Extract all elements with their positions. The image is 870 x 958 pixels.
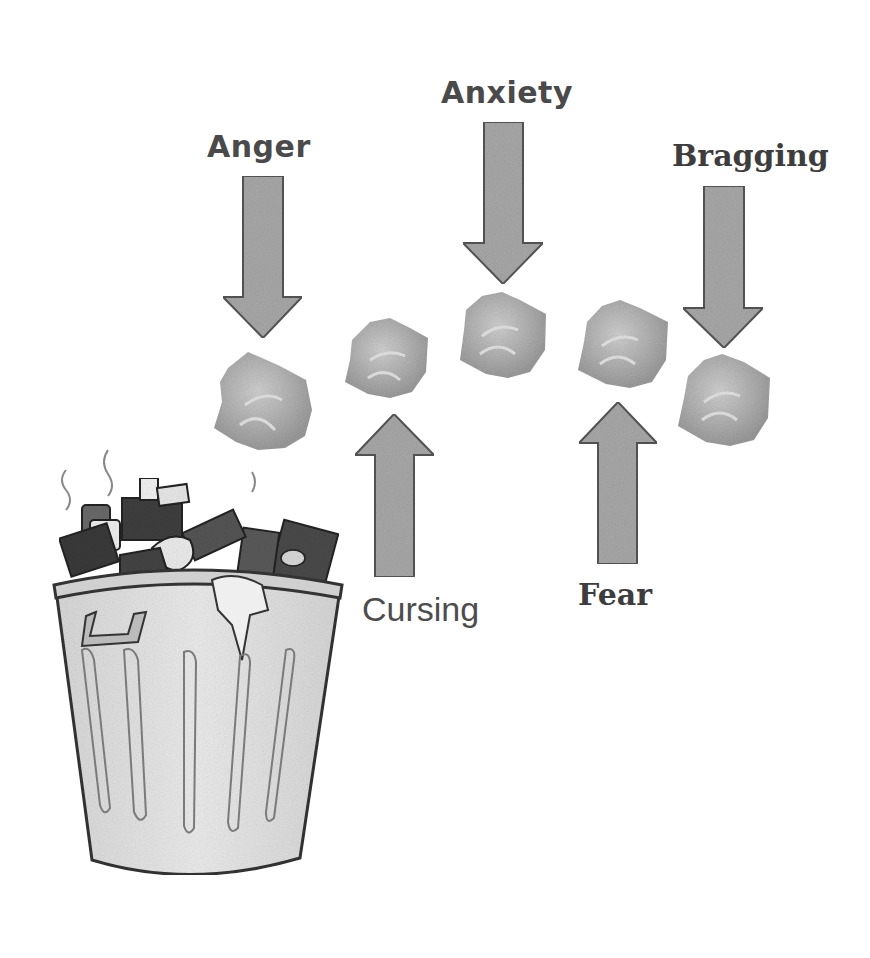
trash-can-icon (54, 450, 342, 875)
crumpled-paper-cursing-icon (345, 318, 428, 398)
crumpled-paper-anxiety-icon (460, 292, 546, 378)
crumpled-paper-anger-icon (214, 352, 312, 450)
crumpled-paper-fear-icon (578, 300, 668, 388)
arrow-bragging-down-icon (683, 186, 763, 348)
arrow-fear-up-icon (579, 402, 657, 564)
crumpled-paper-bragging-icon (678, 354, 770, 446)
arrow-anger-down-icon (223, 176, 302, 338)
arrow-cursing-up-icon (355, 414, 434, 577)
arrow-anxiety-down-icon (463, 122, 543, 284)
